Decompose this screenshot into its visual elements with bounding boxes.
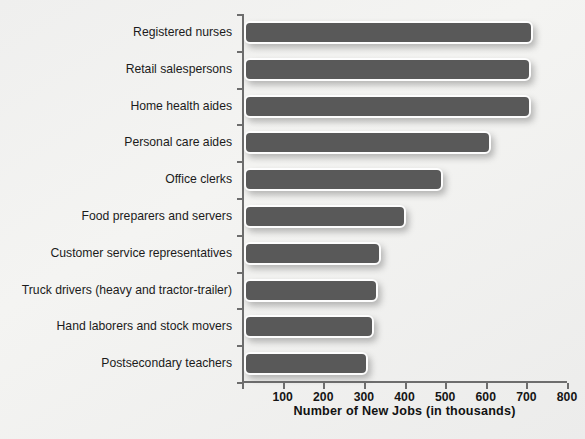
bar-row (242, 308, 567, 345)
y-axis-label: Retail salespersons (126, 51, 232, 88)
y-axis-label: Registered nurses (133, 14, 232, 51)
x-axis-tick (283, 383, 285, 389)
bar-row (242, 272, 567, 309)
y-axis-label: Personal care aides (124, 124, 232, 161)
plot-area (242, 14, 567, 382)
x-axis-tick (323, 383, 325, 389)
y-axis-label: Hand laborers and stock movers (57, 308, 232, 345)
x-axis-tick (242, 383, 244, 389)
bar-5 (244, 168, 443, 191)
bar-fill (244, 352, 368, 375)
bar-9 (244, 315, 374, 338)
x-axis-tick-label: 400 (394, 390, 414, 404)
x-axis-tick (445, 383, 447, 389)
x-axis-tick-label: 300 (354, 390, 374, 404)
x-axis-tick-label: 600 (476, 390, 496, 404)
y-axis-category-labels: Registered nursesRetail salespersonsHome… (0, 14, 236, 382)
bar-6 (244, 205, 406, 228)
y-axis-label: Food preparers and servers (82, 198, 232, 235)
bar-8 (244, 279, 378, 302)
y-axis-tick (237, 14, 243, 16)
bar-row (242, 198, 567, 235)
bar-2 (244, 58, 531, 81)
x-axis-tick (405, 383, 407, 389)
x-axis-tick-label: 700 (516, 390, 536, 404)
bar-7 (244, 242, 381, 265)
y-axis-label: Customer service representatives (50, 235, 232, 272)
x-axis-tick (486, 383, 488, 389)
y-axis-tick (237, 308, 243, 310)
x-axis-tick-label: 200 (313, 390, 333, 404)
y-axis-tick (237, 124, 243, 126)
bar-1 (244, 21, 533, 44)
x-axis-tick (364, 383, 366, 389)
bar-row (242, 14, 567, 51)
y-axis-tick (237, 198, 243, 200)
y-axis-tick (237, 272, 243, 274)
bar-fill (244, 205, 406, 228)
bar-fill (244, 279, 378, 302)
bar-chart: Registered nursesRetail salespersonsHome… (0, 0, 585, 439)
bar-fill (244, 131, 491, 154)
y-axis-tick (237, 161, 243, 163)
x-axis-tick-label: 800 (557, 390, 577, 404)
y-axis-label: Truck drivers (heavy and tractor-trailer… (22, 272, 232, 309)
x-axis-tick-label: 100 (272, 390, 292, 404)
bar-row (242, 51, 567, 88)
y-axis-tick (237, 235, 243, 237)
bar-fill (244, 58, 531, 81)
bar-fill (244, 168, 443, 191)
bar-fill (244, 21, 533, 44)
bar-row (242, 124, 567, 161)
y-axis-label: Office clerks (165, 161, 232, 198)
bar-row (242, 235, 567, 272)
bar-rows (242, 14, 567, 382)
bar-4 (244, 131, 491, 154)
y-axis-label: Home health aides (130, 88, 232, 125)
bar-fill (244, 95, 531, 118)
bar-fill (244, 242, 381, 265)
x-axis-tick (567, 383, 569, 389)
x-axis-tick (526, 383, 528, 389)
bar-10 (244, 352, 368, 375)
y-axis-tick (237, 88, 243, 90)
y-axis-tick (237, 51, 243, 53)
bar-3 (244, 95, 531, 118)
y-axis-tick (237, 345, 243, 347)
bar-row (242, 345, 567, 382)
bar-row (242, 88, 567, 125)
bar-fill (244, 315, 374, 338)
x-axis-tick-label: 500 (435, 390, 455, 404)
bar-row (242, 161, 567, 198)
x-axis-title: Number of New Jobs (in thousands) (242, 404, 567, 418)
y-axis-label: Postsecondary teachers (101, 345, 232, 382)
